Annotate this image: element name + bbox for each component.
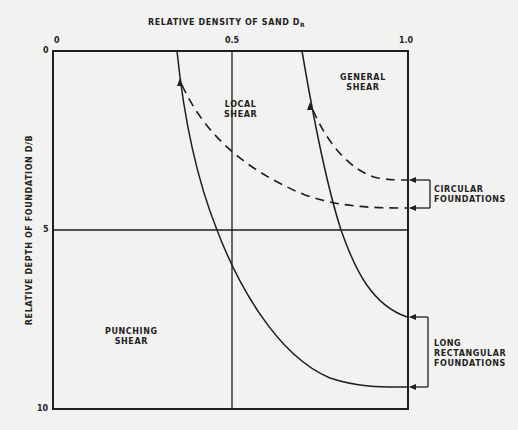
region-local-shear: LOCAL SHEAR xyxy=(224,100,257,120)
region-label-line: PUNCHING xyxy=(105,327,158,337)
annotation-line: FOUNDATIONS xyxy=(434,359,506,369)
annotation-rectangular-foundations: LONG RECTANGULAR FOUNDATIONS xyxy=(434,339,506,369)
curve-rect-punching-local xyxy=(177,51,407,387)
arrow-marker-icon xyxy=(177,78,183,86)
region-label-line: SHEAR xyxy=(340,83,386,93)
curve-circular-local-general xyxy=(313,110,408,180)
region-label-line: LOCAL xyxy=(224,100,257,110)
rectangular-foundations-bracket xyxy=(409,314,428,390)
region-label-line: GENERAL xyxy=(340,73,386,83)
annotation-line: CIRCULAR xyxy=(434,185,506,195)
arrow-left-icon xyxy=(409,205,416,211)
circular-foundations-bracket xyxy=(409,177,430,211)
curve-circular-punching-local xyxy=(182,85,408,208)
arrow-left-icon xyxy=(409,384,416,390)
region-general-shear: GENERAL SHEAR xyxy=(340,73,386,93)
annotation-line: FOUNDATIONS xyxy=(434,195,506,205)
annotation-circular-foundations: CIRCULAR FOUNDATIONS xyxy=(434,185,506,205)
region-punching-shear: PUNCHING SHEAR xyxy=(105,327,158,347)
annotation-line: RECTANGULAR xyxy=(434,349,506,359)
region-label-line: SHEAR xyxy=(105,337,158,347)
arrow-left-icon xyxy=(409,314,416,320)
annotation-line: LONG xyxy=(434,339,506,349)
arrow-left-icon xyxy=(409,177,416,183)
region-label-line: SHEAR xyxy=(224,110,257,120)
